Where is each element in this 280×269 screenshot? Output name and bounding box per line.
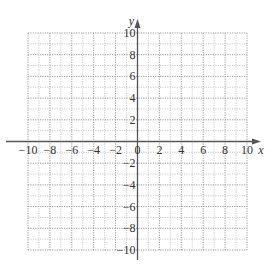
coordinate-plane: −10−8−6−4−20246810−10−8−6−4−2246810xy [0,0,280,269]
x-tick-label: 0 [135,143,141,157]
x-tick-label: 10 [241,143,253,157]
tick-labels: −10−8−6−4−20246810−10−8−6−4−2246810xy [19,14,265,257]
y-tick-label: 10 [124,26,136,40]
y-tick-label: −8 [123,221,136,235]
y-tick-label: −4 [123,178,136,192]
y-tick-label: −2 [123,156,136,170]
y-tick-label: 2 [130,113,136,127]
x-tick-label: −6 [65,143,78,157]
x-tick-label: −4 [87,143,100,157]
x-tick-label: −10 [19,143,38,157]
x-axis-label: x [257,143,264,157]
y-tick-label: −10 [117,243,136,257]
x-tick-label: 8 [222,143,228,157]
x-tick-label: 2 [156,143,162,157]
x-tick-label: −2 [109,143,122,157]
y-tick-label: 8 [130,48,136,62]
x-tick-label: −8 [44,143,57,157]
x-tick-label: 4 [178,143,184,157]
y-tick-label: 4 [130,91,136,105]
y-axis-label: y [128,14,135,28]
y-tick-label: −6 [123,200,136,214]
x-tick-label: 6 [200,143,206,157]
y-tick-label: 6 [130,69,136,83]
